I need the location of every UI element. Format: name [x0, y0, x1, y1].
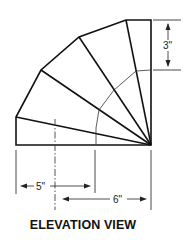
- elevation-diagram: 3" 5" 6" ELEVATION VIEW: [0, 0, 190, 240]
- dimension-5in: 5": [20, 181, 91, 192]
- dimension-3in: 3": [163, 23, 173, 67]
- svg-text:5": 5": [36, 181, 46, 192]
- svg-text:3": 3": [163, 40, 173, 51]
- dimension-6in: 6": [62, 194, 147, 205]
- svg-text:6": 6": [113, 194, 123, 205]
- diagram-title: ELEVATION VIEW: [0, 218, 166, 232]
- elbow-outline: [16, 20, 151, 145]
